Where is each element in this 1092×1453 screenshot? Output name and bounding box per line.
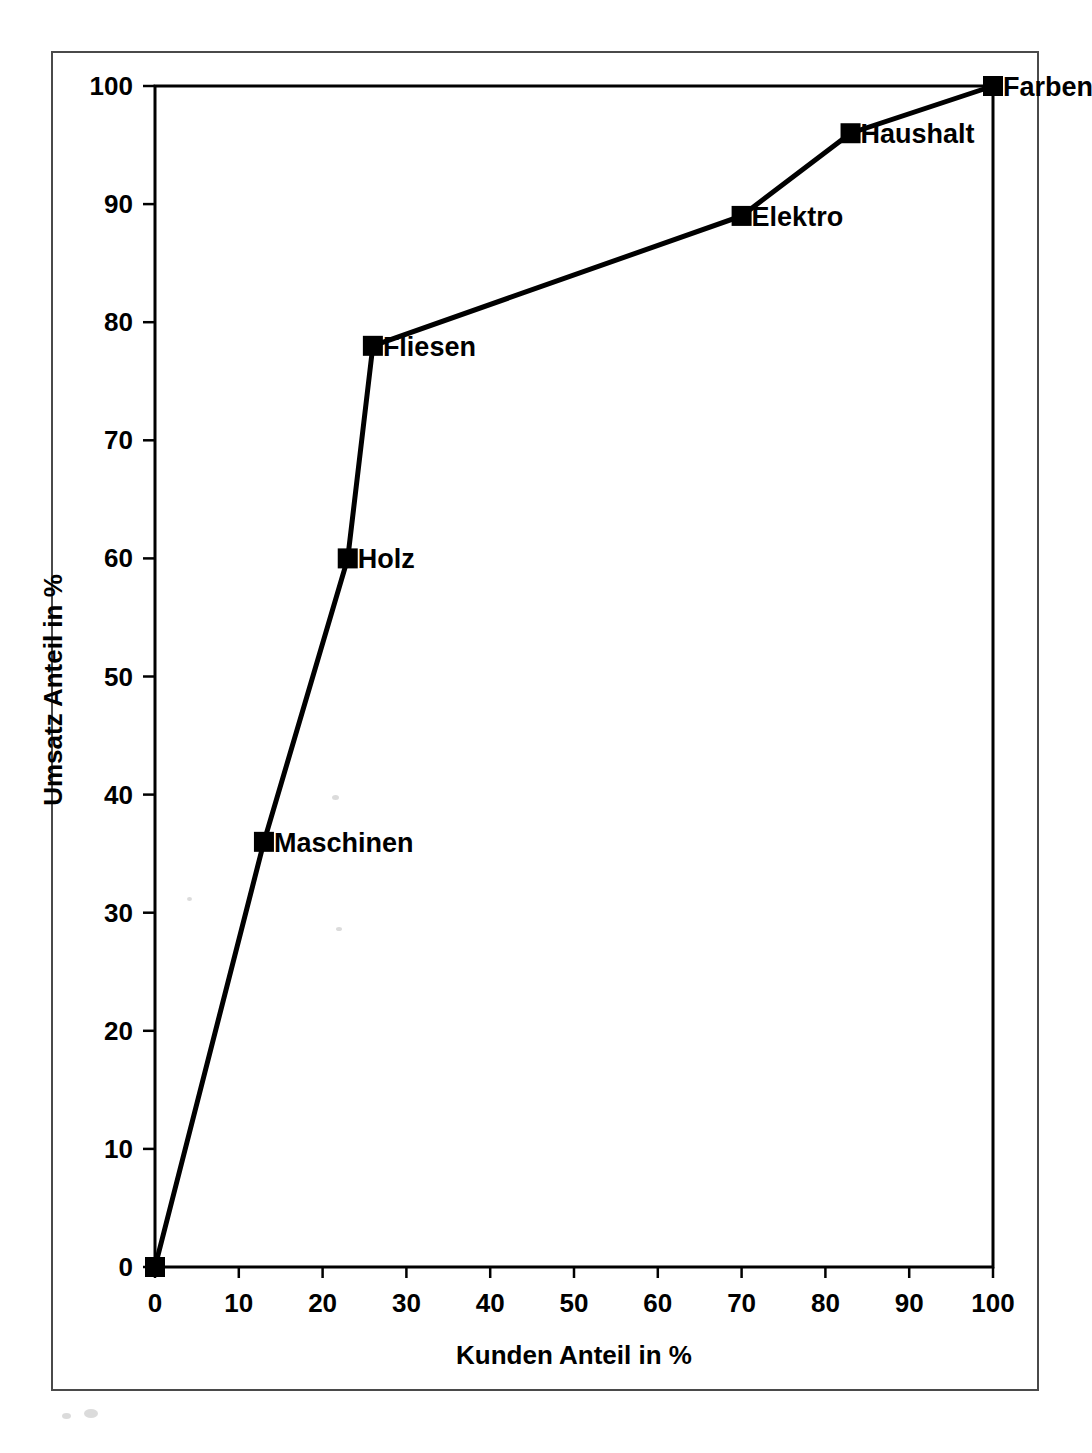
scan-artifact <box>332 795 339 800</box>
y-tick-label: 50 <box>104 662 133 692</box>
chart-figure: 0102030405060708090100 01020304050607080… <box>0 0 1092 1453</box>
y-tick-label: 80 <box>104 307 133 337</box>
scan-artifact <box>62 1413 71 1419</box>
y-tick-label: 20 <box>104 1016 133 1046</box>
y-axis-ticks <box>143 86 155 1267</box>
x-axis-ticks <box>155 1267 993 1278</box>
data-point-marker <box>145 1257 165 1277</box>
data-point-marker <box>841 123 861 143</box>
x-tick-label: 80 <box>811 1288 840 1318</box>
data-point-label: Fliesen <box>383 332 476 362</box>
data-point-label: Elektro <box>752 202 844 232</box>
y-tick-label: 100 <box>90 71 133 101</box>
x-tick-label: 50 <box>560 1288 589 1318</box>
data-point-labels: MaschinenHolzFliesenElektroHaushaltFarbe… <box>274 72 1092 858</box>
y-tick-label: 70 <box>104 425 133 455</box>
data-point-label: Farben <box>1003 72 1092 102</box>
x-tick-label: 60 <box>643 1288 672 1318</box>
x-tick-label: 20 <box>308 1288 337 1318</box>
x-tick-label: 10 <box>224 1288 253 1318</box>
data-point-marker <box>254 832 274 852</box>
data-point-marker <box>732 206 752 226</box>
pareto-chart: 0102030405060708090100 01020304050607080… <box>0 0 1092 1453</box>
scan-artifact <box>336 927 342 931</box>
y-tick-label: 90 <box>104 189 133 219</box>
axes-frame <box>155 86 993 1267</box>
scan-artifact <box>84 1409 98 1418</box>
data-point-marker <box>983 76 1003 96</box>
y-tick-label: 60 <box>104 543 133 573</box>
y-tick-label: 10 <box>104 1134 133 1164</box>
x-tick-label: 0 <box>148 1288 162 1318</box>
x-axis-tick-labels: 0102030405060708090100 <box>148 1288 1015 1318</box>
x-tick-label: 40 <box>476 1288 505 1318</box>
series-group <box>155 86 993 1267</box>
y-axis-title: Umsatz Anteil in % <box>38 574 68 806</box>
y-tick-label: 40 <box>104 780 133 810</box>
x-axis-title: Kunden Anteil in % <box>456 1340 692 1370</box>
y-axis-tick-labels: 0102030405060708090100 <box>90 71 133 1282</box>
x-tick-label: 90 <box>895 1288 924 1318</box>
data-point-label: Maschinen <box>274 828 414 858</box>
data-point-label: Haushalt <box>861 119 975 149</box>
y-tick-label: 30 <box>104 898 133 928</box>
scan-artifact <box>187 897 192 901</box>
data-point-marker <box>363 336 383 356</box>
x-tick-label: 30 <box>392 1288 421 1318</box>
data-point-markers <box>145 76 1003 1277</box>
y-tick-label: 0 <box>119 1252 133 1282</box>
x-tick-label: 70 <box>727 1288 756 1318</box>
data-point-marker <box>338 548 358 568</box>
x-tick-label: 100 <box>971 1288 1014 1318</box>
data-point-label: Holz <box>358 544 415 574</box>
